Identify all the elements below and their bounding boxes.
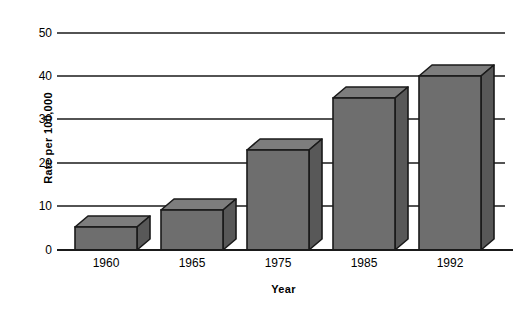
bar-1985: [333, 87, 408, 250]
bar-1975-front: [247, 150, 309, 250]
bar-chart: 50 40 30 20 10 0 1960 1965 1975 1985 199…: [0, 0, 529, 313]
x-axis-tick-labels: 1960 1965 1975 1985 1992: [0, 256, 529, 278]
bar-1985-front: [333, 98, 395, 250]
bar-1975: [247, 139, 322, 250]
x-tick-label-1985: 1985: [326, 256, 402, 270]
x-axis-title: Year: [62, 283, 505, 295]
y-tick-label-50: 50: [0, 26, 52, 40]
bar-1960: [75, 216, 150, 250]
bar-1975-side: [309, 139, 322, 250]
bar-1992-front: [419, 76, 481, 250]
x-tick-label-1965: 1965: [154, 256, 230, 270]
x-tick-label-1975: 1975: [240, 256, 316, 270]
bar-1965-front: [161, 210, 223, 250]
bar-1985-side: [395, 87, 408, 250]
bar-1960-front: [75, 227, 137, 250]
x-tick-label-1960: 1960: [68, 256, 144, 270]
bar-1992-side: [481, 65, 494, 250]
bar-1992: [419, 65, 494, 250]
y-tick-label-0: 0: [0, 243, 52, 257]
bar-1965: [161, 199, 236, 250]
y-axis-title: Rate per 100,000: [42, 48, 54, 228]
x-tick-label-1992: 1992: [412, 256, 488, 270]
